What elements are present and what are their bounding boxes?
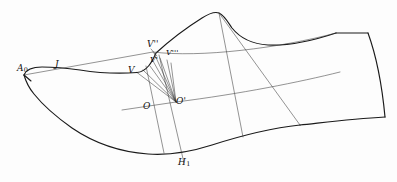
figure-container: A0 J V V' V'' V''' O O' H1 (0, 0, 397, 182)
median-construction-line (153, 33, 336, 54)
fan-line-to-v-b (153, 61, 176, 102)
label-o: O (143, 102, 150, 111)
label-v-double-prime: V'' (147, 40, 158, 49)
label-h1-base: H (178, 157, 186, 167)
label-o-base: O (143, 101, 150, 111)
heel-bottom-edge (300, 117, 385, 125)
label-a0-base: A (17, 63, 24, 73)
label-j-base: J (55, 59, 59, 69)
heel-back-edge (368, 33, 385, 117)
label-h1-subscript: 1 (186, 160, 190, 168)
label-v-triple-prime-base: V''' (166, 48, 178, 57)
instep-peak-to-heel-line (219, 13, 300, 125)
label-a0: A0 (17, 64, 28, 74)
label-v-prime-base: V' (150, 55, 158, 64)
fan-line-to-v (137, 73, 176, 103)
label-v: V (128, 66, 135, 75)
fan-line-to-v-a (143, 70, 176, 102)
label-o-prime: O' (176, 97, 186, 106)
instep-peak-to-sole-line (219, 13, 243, 137)
label-a0-subscript: 0 (24, 66, 28, 74)
shoe-last-diagram (0, 0, 397, 182)
label-v-triple-prime: V''' (166, 49, 178, 57)
label-v-base: V (128, 65, 135, 75)
label-h1: H1 (178, 158, 190, 168)
top-profile-outline (24, 13, 336, 75)
girth-horizontal-line (122, 72, 340, 110)
label-j: J (55, 60, 59, 69)
label-v-double-prime-base: V'' (147, 39, 158, 49)
label-o-prime-base: O' (176, 96, 186, 106)
label-v-prime: V' (150, 56, 158, 64)
